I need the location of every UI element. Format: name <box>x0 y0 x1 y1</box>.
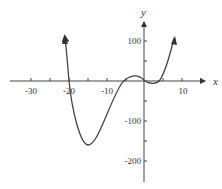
function-curve <box>65 38 174 145</box>
y-axis-label: y <box>140 6 146 18</box>
curve-arrow-left <box>62 36 68 44</box>
chart: -30 -20 -10 10 100 -100 -200 x y <box>0 0 222 189</box>
y-tick-label: -100 <box>125 116 142 126</box>
y-tick-label: -200 <box>125 156 142 166</box>
y-tick-label: 100 <box>128 36 142 46</box>
x-tick-label: -10 <box>101 86 113 96</box>
curve-arrow-right <box>171 36 177 45</box>
x-tick-label: -30 <box>25 86 37 96</box>
x-tick-label: 10 <box>179 86 189 96</box>
x-axis-label: x <box>212 75 218 87</box>
